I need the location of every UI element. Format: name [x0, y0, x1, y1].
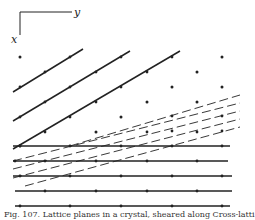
lattice-point	[146, 101, 149, 104]
lattice-point	[221, 205, 224, 208]
lattice-point	[44, 131, 47, 134]
horizontal-lattice-lines	[13, 145, 232, 208]
solid-diagonal-lattice-lines	[13, 49, 180, 149]
dashed-lattice-line	[13, 119, 240, 178]
lattice-point	[196, 160, 199, 163]
lattice-points	[19, 56, 224, 134]
lattice-point	[120, 56, 123, 59]
x-axis-label: x	[11, 33, 18, 46]
lattice-point	[69, 56, 72, 59]
lattice-point	[95, 131, 98, 134]
diagonal-lattice-line	[13, 51, 130, 121]
lattice-point	[196, 190, 199, 193]
lattice-point	[95, 101, 98, 104]
diagonal-lattice-line	[13, 51, 180, 149]
dashed-lattice-line	[25, 127, 240, 186]
lattice-point	[95, 71, 98, 74]
lattice-point	[69, 205, 72, 208]
lattice-point	[221, 175, 224, 178]
lattice-point	[120, 145, 123, 148]
lattice-point	[171, 115, 174, 118]
lattice-point	[44, 71, 47, 74]
lattice-point	[69, 116, 72, 119]
lattice-point	[19, 86, 22, 89]
lattice-point	[196, 131, 199, 134]
lattice-point	[19, 116, 22, 119]
lattice-diagram: yx	[0, 0, 255, 220]
lattice-point	[19, 56, 22, 59]
lattice-point	[171, 56, 174, 59]
lattice-point	[69, 86, 72, 89]
coordinate-axes: yx	[11, 6, 81, 46]
lattice-point	[221, 86, 224, 89]
lattice-point	[171, 205, 174, 208]
lattice-point	[221, 56, 224, 59]
lattice-point	[95, 190, 98, 193]
lattice-point	[171, 130, 174, 133]
lattice-point	[44, 101, 47, 104]
lattice-point	[19, 145, 22, 148]
lattice-point	[221, 130, 224, 133]
lattice-point	[146, 190, 149, 193]
lattice-point	[120, 116, 123, 119]
lattice-point	[146, 131, 149, 134]
lattice-point	[95, 160, 98, 163]
lattice-point	[19, 205, 22, 208]
y-axis-label: y	[73, 6, 81, 19]
lattice-point	[171, 175, 174, 178]
dashed-lattice-line	[13, 103, 240, 161]
lattice-point	[120, 205, 123, 208]
dashed-lattice-lines	[13, 95, 240, 186]
lattice-point	[44, 190, 47, 193]
lattice-point	[120, 175, 123, 178]
figure-caption: Fig. 107. Lattice planes in a crystal, s…	[4, 210, 255, 220]
lattice-point	[120, 86, 123, 89]
lattice-point	[146, 160, 149, 163]
lattice-point	[221, 145, 224, 148]
lattice-point	[171, 86, 174, 89]
lattice-point	[221, 115, 224, 118]
lattice-point	[196, 71, 199, 74]
lattice-point	[196, 101, 199, 104]
lattice-point	[146, 71, 149, 74]
lattice-point	[69, 175, 72, 178]
